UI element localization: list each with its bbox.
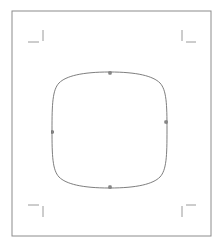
node-handle-left[interactable] xyxy=(51,131,53,133)
artboard-canvas[interactable] xyxy=(0,0,222,246)
page-border xyxy=(12,11,211,236)
crop-mark-top-left xyxy=(28,30,43,42)
node-handle-bottom[interactable] xyxy=(109,186,111,188)
node-handle-right[interactable] xyxy=(165,121,167,123)
crop-mark-bottom-left xyxy=(28,205,43,217)
crop-mark-top-right xyxy=(182,30,196,42)
artboard-vector-surface[interactable] xyxy=(0,0,222,246)
node-handle-top[interactable] xyxy=(109,72,111,74)
node-handles-group[interactable] xyxy=(51,72,167,188)
squircle-path[interactable] xyxy=(52,72,167,188)
crop-mark-bottom-right xyxy=(182,205,196,217)
crop-marks-group xyxy=(28,30,196,217)
